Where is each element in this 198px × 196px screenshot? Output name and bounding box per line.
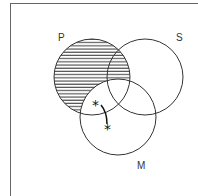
venn-diagram: P S M * * (0, 0, 198, 196)
set-s-label: S (176, 32, 183, 43)
set-m-label: M (137, 160, 145, 171)
asterisk-marker-m: * (104, 121, 111, 137)
shaded-region-p-outside-m (0, 0, 198, 196)
set-p-label: P (58, 32, 65, 43)
asterisk-marker-p-m: * (92, 97, 99, 113)
